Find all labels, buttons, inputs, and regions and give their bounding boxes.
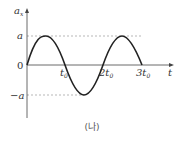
x-axis-label: t <box>168 67 173 78</box>
y-tick-neg-a: −a <box>10 90 24 101</box>
x-tick-2t0: 2t0 <box>98 67 113 79</box>
y-axis-label: ax <box>14 5 24 17</box>
y-tick-zero: 0 <box>17 60 23 71</box>
figure-caption: (나) <box>0 120 184 133</box>
y-axis-arrow-icon <box>25 8 29 13</box>
sine-curve <box>27 36 142 95</box>
y-tick-a: a <box>17 30 23 41</box>
x-tick-3t0: 3t0 <box>136 67 150 79</box>
